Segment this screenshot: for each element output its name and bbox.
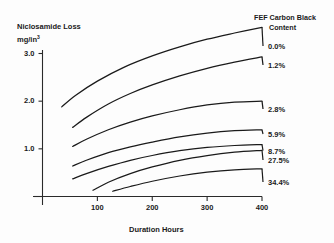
series-label: 34.4%	[268, 178, 289, 187]
y-tick-label: 2.0	[13, 96, 35, 105]
x-tick-label: 200	[140, 203, 164, 212]
series-line	[73, 57, 262, 128]
chart-plot-area	[0, 0, 334, 243]
x-tick-label: 100	[85, 203, 109, 212]
series-label: 27.5%	[268, 156, 289, 165]
y-axis-units-exponent: 3	[37, 34, 40, 40]
series-line	[73, 130, 262, 166]
series-curves	[62, 27, 262, 191]
legend-title-line1: FEF Carbon Black	[254, 13, 316, 22]
x-tick-label: 400	[250, 203, 274, 212]
legend-leader-line	[262, 130, 263, 134]
y-axis-units-text: mg/in	[17, 35, 37, 44]
series-label: 8.7%	[268, 147, 285, 156]
y-axis-title: Niclosamide Loss	[17, 22, 81, 31]
legend-leader-line	[262, 101, 263, 109]
x-tick-label: 300	[195, 203, 219, 212]
legend-leader-line	[262, 57, 263, 65]
legend-leader-line	[262, 145, 263, 151]
series-line	[62, 27, 262, 107]
y-axis-units: mg/in3	[17, 35, 40, 44]
series-label: 2.8%	[268, 105, 285, 114]
legend-leader-line	[262, 27, 263, 46]
legend-leader-line	[262, 169, 263, 182]
legend-leader-lines	[262, 27, 263, 182]
series-label: 1.2%	[268, 61, 285, 70]
y-tick-label: 1.0	[13, 144, 35, 153]
chart-container: Niclosamide Loss mg/in3 Duration Hours F…	[0, 0, 334, 243]
series-label: 5.9%	[268, 130, 285, 139]
y-tick-label: 3.0	[13, 49, 35, 58]
series-label: 0.0%	[268, 42, 285, 51]
series-line	[73, 145, 262, 179]
legend-title-line2: Content	[269, 23, 296, 32]
x-axis-title: Duration Hours	[129, 225, 184, 234]
legend-leader-line	[262, 150, 263, 160]
axis-ticks	[34, 54, 263, 202]
